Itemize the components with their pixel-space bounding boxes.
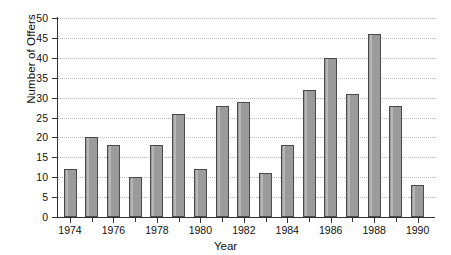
- y-axis-tick-label: 10: [26, 172, 48, 182]
- x-axis-major-tick: [418, 218, 419, 223]
- y-axis-tick-label: 35: [26, 73, 48, 83]
- x-axis-tick-label: 1988: [354, 224, 394, 236]
- bar: [346, 94, 359, 217]
- x-axis-minor-tick: [92, 218, 93, 222]
- x-axis-major-tick: [331, 218, 332, 223]
- x-axis-minor-tick: [309, 218, 310, 222]
- x-axis-tick-label: 1984: [267, 224, 307, 236]
- bar: [303, 90, 316, 217]
- x-axis-tick-label: 1976: [93, 224, 133, 236]
- x-axis-major-tick: [374, 218, 375, 223]
- bar: [172, 114, 185, 217]
- bar: [368, 34, 381, 217]
- y-axis-tick-label: 45: [26, 33, 48, 43]
- x-axis-minor-tick: [222, 218, 223, 222]
- y-axis-tick-label: 15: [26, 152, 48, 162]
- y-axis-tick-label: 40: [26, 53, 48, 63]
- bar: [64, 169, 77, 217]
- x-axis-major-tick: [244, 218, 245, 223]
- y-axis-tick-label: 0: [26, 212, 48, 222]
- y-axis-tick-label: 20: [26, 132, 48, 142]
- bar: [324, 58, 337, 217]
- bar: [216, 106, 229, 217]
- bar: [107, 145, 120, 217]
- x-axis-tick-label: 1986: [311, 224, 351, 236]
- bar-chart: Number of Offers 05101520253035404550 19…: [0, 0, 451, 255]
- bar: [281, 145, 294, 217]
- x-axis-major-tick: [200, 218, 201, 223]
- x-axis-minor-tick: [396, 218, 397, 222]
- bar: [237, 102, 250, 217]
- x-axis-tick-label: 1978: [137, 224, 177, 236]
- x-axis-minor-tick: [266, 218, 267, 222]
- bar: [150, 145, 163, 217]
- bar: [389, 106, 402, 217]
- x-axis-tick-label: 1982: [224, 224, 264, 236]
- y-axis-tick: [52, 217, 58, 218]
- y-axis-tick-label: 30: [26, 93, 48, 103]
- x-axis-major-tick: [157, 218, 158, 223]
- x-axis-minor-tick: [352, 218, 353, 222]
- x-axis-major-tick: [70, 218, 71, 223]
- x-axis-minor-tick: [135, 218, 136, 222]
- x-axis-title: Year: [0, 240, 451, 252]
- bar: [129, 177, 142, 217]
- x-axis-major-tick: [113, 218, 114, 223]
- plot-area: [57, 18, 435, 217]
- y-axis-tick-label: 25: [26, 113, 48, 123]
- x-axis-tick-label: 1980: [180, 224, 220, 236]
- y-axis-tick-label: 5: [26, 192, 48, 202]
- x-axis-major-tick: [287, 218, 288, 223]
- bar: [194, 169, 207, 217]
- y-axis-tick-label: 50: [26, 13, 48, 23]
- x-axis-minor-tick: [179, 218, 180, 222]
- x-axis-tick-label: 1990: [398, 224, 438, 236]
- bar: [411, 185, 424, 217]
- x-axis-tick-label: 1974: [50, 224, 90, 236]
- bar: [85, 137, 98, 217]
- bar: [259, 173, 272, 217]
